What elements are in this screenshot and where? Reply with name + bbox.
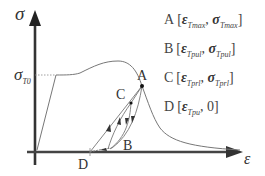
point-d-label: D bbox=[78, 157, 88, 172]
legend-row-d: D[εTpu, 0] bbox=[164, 95, 242, 124]
x-axis-label: ε bbox=[244, 150, 251, 167]
legend-row-c: C[εTprl, σTprl] bbox=[164, 66, 242, 95]
legend-row-b: B[εTpul, σTpul] bbox=[164, 37, 242, 66]
point-a-label: A bbox=[137, 68, 148, 83]
y-axis-arrow-icon bbox=[29, 10, 41, 26]
y-axis-label: σ bbox=[15, 3, 25, 24]
sigma-t0-label: σT0 bbox=[14, 65, 31, 86]
arrow-left-icon bbox=[100, 148, 107, 151]
point-a-marker bbox=[140, 84, 144, 88]
points-legend: A[εTmax, σTmax] B[εTpul, σTpul] C[εTprl,… bbox=[164, 8, 242, 124]
arrow-up-icon bbox=[117, 117, 121, 125]
point-b-label: B bbox=[123, 138, 132, 153]
legend-row-a: A[εTmax, σTmax] bbox=[164, 8, 242, 37]
arrow-up-icon bbox=[106, 124, 111, 132]
point-c-label: C bbox=[116, 87, 125, 102]
point-c-marker bbox=[129, 101, 132, 104]
x-axis-arrow-icon bbox=[226, 146, 243, 158]
